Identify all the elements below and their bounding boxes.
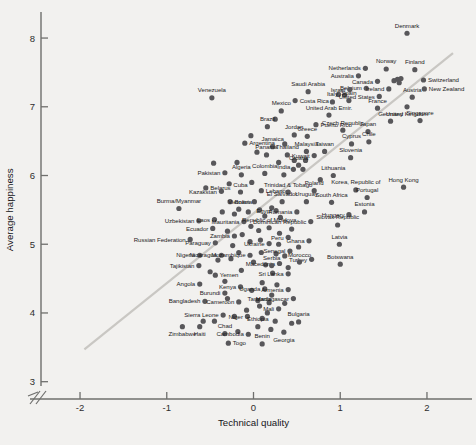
data-point-label: Thailand — [276, 143, 299, 150]
data-point — [401, 185, 406, 190]
data-point-label: Botswana — [327, 253, 354, 260]
data-point — [201, 319, 206, 324]
data-point-label: Algeria — [232, 163, 251, 170]
data-point — [259, 188, 264, 193]
data-point-label: Ukraine — [244, 240, 265, 247]
data-point-label: Kazakstan — [189, 188, 217, 195]
data-point — [246, 332, 251, 337]
data-point-label: Bangladesh — [169, 297, 201, 304]
data-point — [239, 268, 244, 273]
scatter-plot-figure: 345678-2-1012Technical qualityAverage ha… — [0, 0, 476, 445]
data-point-label: Spain — [341, 89, 356, 96]
data-point-label: South Africa — [315, 191, 348, 198]
data-point — [210, 226, 215, 231]
data-point-label: Jamaica — [261, 135, 284, 142]
data-point-label: Mozambique — [211, 251, 246, 258]
plot-canvas: 345678-2-1012Technical qualityAverage ha… — [0, 0, 476, 445]
data-point — [306, 89, 311, 94]
data-point — [267, 225, 272, 230]
data-point-label: Estonia — [355, 200, 376, 207]
data-point — [306, 238, 311, 243]
data-point-label: Switzerland — [428, 76, 459, 83]
data-point — [219, 189, 224, 194]
data-point-label: Finland — [405, 58, 425, 65]
data-point-label: Vietnam — [228, 198, 250, 205]
data-point — [232, 211, 237, 216]
data-point — [410, 95, 415, 100]
data-point — [286, 287, 291, 292]
data-point-label: Mauritania — [212, 218, 241, 225]
data-point-label: Mali — [263, 305, 274, 312]
data-point — [176, 206, 181, 211]
x-axis-tick-label: -1 — [163, 402, 171, 413]
data-point — [421, 77, 426, 82]
data-point-label: Czech Republic — [322, 119, 364, 126]
data-point-label: Georgia — [273, 336, 295, 343]
data-point — [197, 324, 202, 329]
data-point-label: Morocco — [288, 251, 312, 258]
data-point — [239, 172, 244, 177]
data-point — [322, 149, 327, 154]
data-point — [286, 271, 291, 276]
data-point — [397, 80, 402, 85]
data-point — [300, 167, 305, 172]
data-point-label: Colombia — [252, 162, 278, 169]
data-point-label: Slovenia — [339, 146, 363, 153]
data-point — [260, 341, 265, 346]
data-point — [256, 228, 261, 233]
data-point-label: Paraguay — [185, 239, 212, 246]
data-point — [386, 86, 391, 91]
data-point — [305, 134, 310, 139]
data-point-label: Cameroon — [206, 298, 234, 305]
data-point — [289, 227, 294, 232]
data-point-label: Kenya — [219, 283, 237, 290]
data-point — [308, 219, 313, 224]
data-point — [338, 262, 343, 267]
data-point — [293, 98, 298, 103]
x-axis-tick-label: 2 — [424, 402, 429, 413]
data-point — [312, 153, 317, 158]
data-point — [366, 139, 371, 144]
data-point — [363, 66, 368, 71]
data-point-label: Saudi Arabia — [291, 80, 326, 87]
data-point-label: Norway — [376, 57, 397, 64]
axis-break-icon — [36, 391, 46, 404]
data-point — [211, 161, 216, 166]
data-point — [248, 133, 253, 138]
data-point-label: Singapore — [406, 109, 434, 116]
data-point — [257, 303, 262, 308]
data-point-label: Yemen — [220, 271, 239, 278]
data-point-label: Armenia — [261, 286, 284, 293]
data-point — [226, 341, 231, 346]
data-point — [267, 241, 272, 246]
data-point-label: Cambodia — [216, 330, 244, 337]
data-point — [262, 171, 267, 176]
data-point-label: Romania — [268, 208, 293, 215]
x-axis-tick-label: -2 — [76, 402, 84, 413]
data-point-label: Sri Lanka — [258, 270, 284, 277]
data-point — [417, 118, 422, 123]
data-point — [246, 209, 251, 214]
data-point — [365, 195, 370, 200]
data-point — [291, 167, 296, 172]
data-point — [238, 189, 243, 194]
data-point-label: Uzbekistan — [165, 217, 195, 224]
data-point-label: Mexico — [272, 99, 292, 106]
data-point-label: Benin — [255, 332, 270, 339]
data-point-label: Taiwan — [315, 140, 334, 147]
data-point — [255, 324, 260, 329]
data-point — [232, 233, 237, 238]
data-point-label: Russian Federation — [134, 236, 186, 243]
data-point — [296, 163, 301, 168]
data-point — [244, 308, 249, 313]
data-point — [362, 209, 367, 214]
data-point — [236, 207, 241, 212]
data-point-label: Ireland — [366, 85, 384, 92]
data-point — [384, 66, 389, 71]
data-point — [281, 172, 286, 177]
data-point-label: Latvia — [331, 233, 348, 240]
data-point — [242, 141, 247, 146]
data-point — [326, 112, 331, 117]
data-point-label: Japan — [360, 120, 376, 127]
data-point — [197, 281, 202, 286]
